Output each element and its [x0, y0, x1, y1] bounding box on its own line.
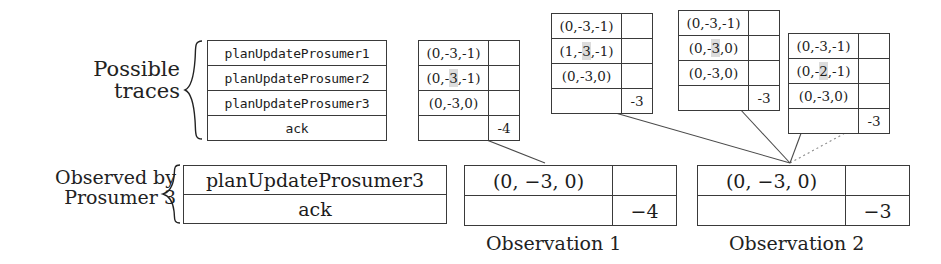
- number-cell: -4: [489, 116, 520, 141]
- vector-suffix: ,-1): [828, 38, 851, 54]
- observed-by-brace: [162, 164, 182, 224]
- table-row: (0,-3,-1): [419, 66, 520, 91]
- vector-highlight: 3: [709, 15, 718, 31]
- table-row: planUpdateProsumer2: [208, 66, 387, 91]
- table-row: (0,-3,-1): [419, 41, 520, 66]
- table-row: -3: [679, 86, 780, 111]
- table-row: ack: [184, 195, 447, 224]
- vector-highlight: 3: [584, 68, 593, 84]
- vector-highlight: 3: [449, 45, 458, 61]
- vector-table-2: (0,-3,-1)(1,-3,-1)(0,-3,0)-3: [551, 13, 653, 114]
- connector-vt3-obs2: [739, 108, 790, 163]
- number-cell: [859, 34, 890, 59]
- number-cell: [489, 66, 520, 91]
- vector-cell: (0,-3,-1): [679, 11, 749, 36]
- possible-traces-table: planUpdateProsumer1 planUpdateProsumer2 …: [207, 40, 387, 141]
- observed-by-label-line2: Prosumer 3: [18, 188, 176, 208]
- observation-number-cell: [846, 166, 910, 196]
- number-cell: [859, 84, 890, 109]
- vector-prefix: (0,-: [796, 38, 819, 54]
- vector-suffix: ,0): [593, 68, 611, 84]
- vector-highlight: 3: [819, 38, 828, 54]
- observation-1-table: (0, −3, 0) −4: [464, 165, 677, 226]
- table-row: planUpdateProsumer3: [208, 91, 387, 116]
- vector-suffix: ,-1): [828, 63, 851, 79]
- vector-prefix: (0,-: [799, 88, 822, 104]
- possible-traces-label: Possible traces: [52, 58, 180, 102]
- observation-number-cell: −4: [613, 196, 677, 226]
- table-row: -4: [419, 116, 520, 141]
- trace-cell: planUpdateProsumer2: [208, 66, 387, 91]
- possible-traces-label-line2: traces: [52, 80, 180, 102]
- vector-suffix: ,-1): [718, 15, 741, 31]
- vector-cell: (0,-3,0): [789, 84, 859, 109]
- vector-highlight: 3: [821, 88, 830, 104]
- vector-cell: [789, 109, 859, 134]
- number-cell: [622, 14, 653, 39]
- vector-highlight: 3: [449, 69, 458, 87]
- vector-cell: (0,-2,-1): [789, 59, 859, 84]
- connector-vt4-obs2: [790, 131, 849, 163]
- table-row: (0,-3,-1): [679, 11, 780, 36]
- vector-suffix: ,-1): [591, 43, 614, 59]
- table-row: -3: [552, 89, 653, 114]
- vector-prefix: (0,-: [429, 95, 452, 111]
- vector-suffix: ,-1): [458, 70, 481, 86]
- vector-suffix: ,0): [460, 95, 478, 111]
- table-row: -3: [789, 109, 890, 134]
- observation-number-cell: −3: [846, 196, 910, 226]
- vector-table-4: (0,-3,-1)(0,-2,-1)(0,-3,0)-3: [788, 33, 890, 134]
- vector-highlight: 3: [582, 18, 591, 34]
- table-row: (0, −3, 0): [698, 166, 910, 196]
- vector-highlight: 3: [711, 65, 720, 81]
- observed-by-label-line1: Observed by: [55, 166, 176, 188]
- vector-cell: (0,-3,0): [552, 64, 622, 89]
- number-cell: [749, 36, 780, 61]
- observed-by-table: planUpdateProsumer3 ack: [183, 165, 447, 224]
- number-cell: [489, 41, 520, 66]
- table-row: (0,-2,-1): [789, 59, 890, 84]
- vector-prefix: (0,-: [559, 18, 582, 34]
- table-row: ack: [208, 116, 387, 141]
- vector-highlight: 2: [819, 62, 828, 80]
- vector-highlight: 3: [582, 42, 591, 60]
- number-cell: [859, 59, 890, 84]
- number-cell: [749, 11, 780, 36]
- observed-by-label: Observed by Prosumer 3: [18, 168, 176, 208]
- vector-prefix: (1,-: [559, 43, 582, 59]
- possible-traces-label-line1: Possible: [93, 57, 180, 81]
- vector-suffix: ,0): [720, 40, 738, 56]
- observation-vector-cell: [465, 196, 613, 226]
- number-cell: -3: [622, 89, 653, 114]
- connector-vt2-obs2: [612, 112, 790, 163]
- observed-cell: ack: [184, 195, 447, 224]
- possible-traces-brace: [184, 40, 204, 140]
- vector-prefix: (0,-: [426, 45, 449, 61]
- observed-cell: planUpdateProsumer3: [184, 166, 447, 195]
- vector-prefix: (0,-: [689, 40, 712, 56]
- vector-prefix: (0,-: [796, 63, 819, 79]
- vector-cell: (0,-3,0): [679, 36, 749, 61]
- table-row: planUpdateProsumer1: [208, 41, 387, 66]
- trace-cell: planUpdateProsumer3: [208, 91, 387, 116]
- number-cell: [489, 91, 520, 116]
- vector-cell: [679, 86, 749, 111]
- vector-cell: [552, 89, 622, 114]
- observation-1-caption: Observation 1: [486, 232, 621, 254]
- vector-cell: (0,-3,-1): [789, 34, 859, 59]
- table-row: (0,-3,0): [679, 36, 780, 61]
- vector-cell: (0,-3,-1): [419, 66, 489, 91]
- vector-cell: (0,-3,-1): [419, 41, 489, 66]
- vector-suffix: ,-1): [591, 18, 614, 34]
- vector-prefix: (0,-: [686, 15, 709, 31]
- number-cell: [622, 39, 653, 64]
- table-row: (1,-3,-1): [552, 39, 653, 64]
- trace-cell: ack: [208, 116, 387, 141]
- table-row: −3: [698, 196, 910, 226]
- vector-prefix: (0,-: [689, 65, 712, 81]
- vector-cell: (1,-3,-1): [552, 39, 622, 64]
- table-row: −4: [465, 196, 677, 226]
- observation-vector-cell: (0, −3, 0): [465, 166, 613, 196]
- number-cell: -3: [859, 109, 890, 134]
- vector-cell: (0,-3,-1): [552, 14, 622, 39]
